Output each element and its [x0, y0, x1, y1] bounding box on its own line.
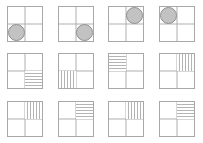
horizontal-stripes-icon — [25, 71, 42, 88]
vertical-stripes-icon — [59, 71, 76, 88]
vertical-stripes-icon — [126, 102, 143, 119]
panel-cell — [51, 95, 102, 143]
marked-quadrant-top-right — [126, 7, 143, 24]
marked-quadrant-top-right — [76, 102, 93, 119]
marked-quadrant-top-right — [177, 54, 194, 71]
panel-cell — [51, 48, 102, 96]
circle-mark-icon — [126, 7, 143, 24]
panel-r3c1[interactable] — [7, 101, 43, 137]
panel-r1c4[interactable] — [159, 6, 195, 42]
marked-quadrant-bottom-right — [76, 24, 93, 41]
panel-cell — [0, 95, 51, 143]
panel-r3c2[interactable] — [58, 101, 94, 137]
panel-r3c4[interactable] — [159, 101, 195, 137]
vertical-stripes-icon — [177, 54, 194, 71]
marked-quadrant-bottom-left — [8, 24, 25, 41]
panel-r3c3[interactable] — [108, 101, 144, 137]
panel-r2c2[interactable] — [58, 53, 94, 89]
panel-cell — [0, 0, 51, 48]
panel-r1c1[interactable] — [7, 6, 43, 42]
panel-cell — [152, 95, 203, 143]
panel-cell — [101, 95, 152, 143]
marked-quadrant-top-right — [25, 102, 42, 119]
panel-r1c3[interactable] — [108, 6, 144, 42]
vertical-stripes-icon — [25, 102, 42, 119]
panel-cell — [101, 0, 152, 48]
marked-quadrant-top-right — [177, 102, 194, 119]
marked-quadrant-bottom-right — [25, 71, 42, 88]
stimulus-panel-grid — [0, 0, 202, 143]
circle-mark-icon — [8, 24, 25, 41]
panel-cell — [51, 0, 102, 48]
panel-r1c2[interactable] — [58, 6, 94, 42]
panel-cell — [152, 0, 203, 48]
marked-quadrant-top-right — [126, 102, 143, 119]
circle-mark-icon — [76, 24, 93, 41]
panel-r2c4[interactable] — [159, 53, 195, 89]
panel-cell — [101, 48, 152, 96]
marked-quadrant-bottom-left — [59, 71, 76, 88]
panel-cell — [0, 48, 51, 96]
marked-quadrant-top-left — [160, 7, 177, 24]
marked-quadrant-top-left — [109, 54, 126, 71]
panel-r2c3[interactable] — [108, 53, 144, 89]
horizontal-stripes-icon — [177, 102, 194, 119]
circle-mark-icon — [160, 7, 177, 24]
horizontal-stripes-icon — [109, 54, 126, 71]
horizontal-stripes-icon — [76, 102, 93, 119]
panel-cell — [152, 48, 203, 96]
panel-r2c1[interactable] — [7, 53, 43, 89]
